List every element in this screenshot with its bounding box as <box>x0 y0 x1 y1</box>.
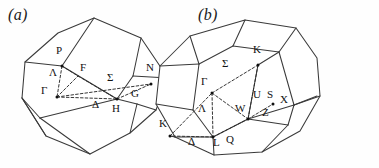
label-line-F: F <box>80 62 86 73</box>
label-point-H: H <box>112 103 120 114</box>
label-line-Z: Z <box>262 107 269 118</box>
point-marker-S <box>272 103 275 106</box>
brillouin-zone-figure: (a) <box>0 0 379 168</box>
label-line-G: G <box>131 88 139 99</box>
label-line-sigma: Σ <box>107 72 113 83</box>
point-marker-H <box>116 98 119 101</box>
label-point-X: X <box>280 94 288 105</box>
panel-b-fcc-brillouin-zone: (b) <box>190 0 379 168</box>
point-marker-Gamma <box>211 92 214 95</box>
label-point-K-lower: K <box>159 118 167 129</box>
label-point-W: W <box>235 103 245 114</box>
label-line-sigma: Σ <box>222 58 228 69</box>
label-line-Q: Q <box>226 134 234 145</box>
point-marker-W <box>247 118 250 121</box>
label-line-delta: Δ <box>188 136 195 147</box>
label-line-delta: Δ <box>92 99 99 110</box>
point-marker-N <box>150 83 153 86</box>
label-point-gamma: Γ <box>41 85 47 96</box>
label-point-L: L <box>213 137 220 148</box>
label-line-S: S <box>267 89 273 100</box>
label-point-gamma: Γ <box>201 76 207 87</box>
label-line-lambda: Λ <box>198 103 206 114</box>
point-marker-K-lower <box>169 135 172 138</box>
label-line-U: U <box>253 89 261 100</box>
label-point-K-upper: K <box>253 44 261 55</box>
label-point-N: N <box>146 62 154 73</box>
point-marker-P <box>61 65 64 68</box>
point-marker-K-upper <box>257 64 260 67</box>
point-marker-Gamma <box>56 96 59 99</box>
label-point-P: P <box>56 45 62 56</box>
label-line-lambda: Λ <box>49 67 57 78</box>
